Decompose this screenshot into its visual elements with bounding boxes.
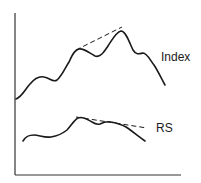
index-label: Index [161,50,190,64]
index-line [16,31,165,99]
rs-trendline [76,117,147,128]
rs-label: RS [156,121,173,135]
rs-line [23,117,145,141]
chart-canvas: Index RS [0,0,201,183]
index-trendline [76,27,122,50]
divergence-diagram: Index RS [0,0,201,183]
